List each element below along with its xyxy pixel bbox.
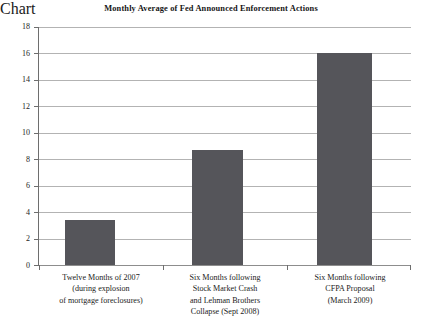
x-category-label-3-line-1: Six Months following [280,272,420,283]
bar-twelve-months-2007 [65,220,115,265]
x-category-label-1-line-1: Twelve Months of 2007 [31,272,171,283]
x-category-label-3-line-3: (March 2009) [280,295,420,306]
x-tick-sep-1 [163,265,164,270]
bar-chart-figure: Monthly Average of Fed Announced Enforce… [0,0,422,325]
x-category-label-1-line-2: (during explosion [31,283,171,294]
y-tick-label-12: 12 [2,102,30,111]
y-tick-label-16: 16 [2,49,30,58]
y-tick-label-2: 2 [2,234,30,243]
gridline-18 [39,27,411,28]
bar-six-months-stock-market-crash [192,150,243,265]
x-category-label-1: Twelve Months of 2007 (during explosion … [31,272,171,306]
x-category-label-3: Six Months following CFPA Proposal (Marc… [280,272,420,306]
x-tick-start [39,265,40,270]
y-tick-label-0: 0 [2,261,30,270]
x-category-label-2-line-4: Collapse (Sept 2008) [155,306,295,317]
y-tick-label-14: 14 [2,75,30,84]
plot-area [39,27,411,265]
chart-title: Monthly Average of Fed Announced Enforce… [0,3,422,14]
y-tick-label-8: 8 [2,155,30,164]
y-tick-label-18: 18 [2,22,30,31]
x-category-label-2-line-1: Six Months following [155,272,295,283]
x-tick-end [410,265,411,270]
x-category-label-2: Six Months following Stock Market Crash … [155,272,295,318]
y-tick-label-4: 4 [2,208,30,217]
x-category-label-2-line-3: and Lehman Brothers [155,295,295,306]
gridline-baseline-0 [39,265,411,266]
x-category-label-1-line-3: of mortgage foreclosures) [31,295,171,306]
x-category-label-3-line-2: CFPA Proposal [280,283,420,294]
bar-six-months-cfpa-proposal [317,53,372,265]
x-tick-sep-2 [287,265,288,270]
x-category-label-2-line-2: Stock Market Crash [155,283,295,294]
y-tick-label-6: 6 [2,181,30,190]
y-tick-label-10: 10 [2,128,30,137]
